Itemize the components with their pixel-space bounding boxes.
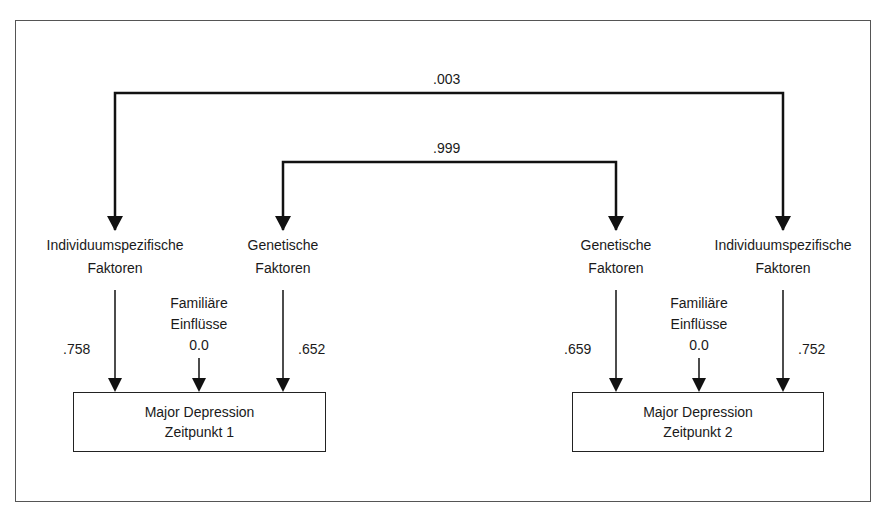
path-coef-individual-t2: .752 (798, 340, 825, 358)
path-coef-genetic-t1: .652 (298, 340, 325, 358)
factor-individual-t2: Individuumspezifische Faktoren (715, 234, 852, 280)
factor-genetic-t2: Genetische Faktoren (581, 234, 652, 280)
factor-genetic-t1: Genetische Faktoren (248, 234, 319, 280)
correlation-individual-value: .003 (433, 70, 460, 88)
arrowhead-icon (775, 216, 791, 231)
outcome-box-t2: Major Depression Zeitpunkt 2 (572, 392, 824, 452)
factor-familial-t1: Familiäre Einflüsse 0.0 (170, 293, 228, 356)
path-coef-familial-t2: 0.0 (670, 335, 728, 356)
arrowhead-icon (275, 216, 291, 231)
arrowhead-icon (107, 216, 123, 231)
path-coef-genetic-t2: .659 (564, 340, 591, 358)
factor-individual-t1: Individuumspezifische Faktoren (47, 234, 184, 280)
path-coef-familial-t1: 0.0 (170, 335, 228, 356)
outcome-box-t1: Major Depression Zeitpunkt 1 (73, 392, 326, 452)
factor-familial-t2: Familiäre Einflüsse 0.0 (670, 293, 728, 356)
correlation-bracket-genetic (275, 162, 624, 231)
correlation-genetic-value: .999 (433, 139, 460, 157)
path-coef-individual-t1: .758 (63, 340, 90, 358)
arrowhead-icon (608, 216, 624, 231)
